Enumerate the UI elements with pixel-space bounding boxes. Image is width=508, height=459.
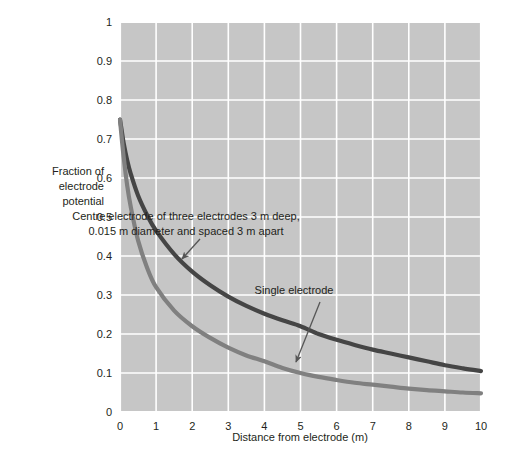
centre-electrode-annotation-line-2: 0.015 m diameter and spaced 3 m apart bbox=[88, 225, 283, 237]
y-tick-label: 0.9 bbox=[97, 55, 112, 67]
x-tick-label: 2 bbox=[189, 420, 195, 432]
x-tick-label: 7 bbox=[370, 420, 376, 432]
y-axis-title-line-1: Fraction of bbox=[52, 165, 105, 177]
single-electrode-annotation-line-1: Single electrode bbox=[255, 284, 334, 296]
x-tick-label: 1 bbox=[153, 420, 159, 432]
y-axis-title-line-3: potential bbox=[62, 195, 104, 207]
x-tick-label: 3 bbox=[225, 420, 231, 432]
y-tick-label: 0.7 bbox=[97, 133, 112, 145]
y-tick-label: 0.1 bbox=[97, 367, 112, 379]
chart-figure: 00.10.20.30.40.50.60.70.80.91 0123456789… bbox=[0, 0, 508, 459]
y-tick-label: 0.3 bbox=[97, 289, 112, 301]
y-tick-label: 0.2 bbox=[97, 328, 112, 340]
x-tick-label: 10 bbox=[475, 420, 487, 432]
x-tick-label: 9 bbox=[442, 420, 448, 432]
x-tick-label: 0 bbox=[117, 420, 123, 432]
x-axis-title: Distance from electrode (m) bbox=[232, 431, 368, 443]
chart-svg: 00.10.20.30.40.50.60.70.80.91 0123456789… bbox=[0, 0, 508, 459]
y-tick-label: 0 bbox=[106, 406, 112, 418]
centre-electrode-annotation-line-1: Centre electrode of three electrodes 3 m… bbox=[72, 210, 299, 222]
y-tick-label: 0.4 bbox=[97, 250, 112, 262]
x-tick-label: 8 bbox=[406, 420, 412, 432]
y-axis-title-line-2: electrode bbox=[59, 180, 104, 192]
y-tick-label: 1 bbox=[106, 16, 112, 28]
y-tick-label: 0.8 bbox=[97, 94, 112, 106]
